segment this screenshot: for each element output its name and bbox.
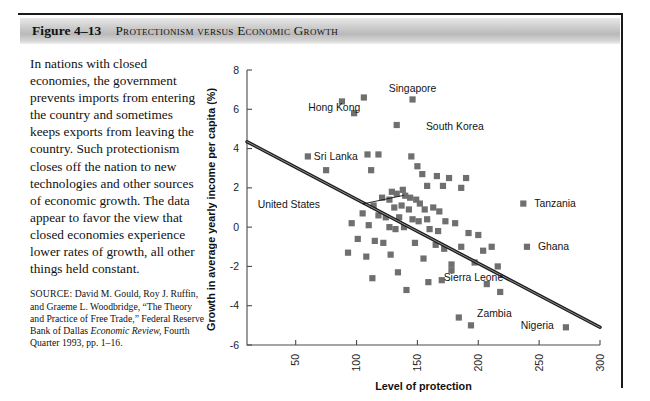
data-point xyxy=(363,254,369,260)
data-point xyxy=(417,200,423,206)
data-point xyxy=(408,153,414,159)
data-point xyxy=(419,171,425,177)
y-tick-label: -2 xyxy=(230,260,239,272)
data-point xyxy=(403,287,409,293)
trendline-highlight xyxy=(247,142,600,328)
data-point xyxy=(489,244,495,250)
source-journal-name: Economic Review, xyxy=(91,325,162,336)
y-tick-label: 8 xyxy=(233,64,239,76)
annotation-label: Sri Lanka xyxy=(314,151,358,162)
data-point xyxy=(394,191,400,197)
annotation-label: Sierra Leone xyxy=(444,272,504,283)
x-tick-label: 100 xyxy=(350,354,362,372)
y-tick-label: -6 xyxy=(230,339,239,351)
data-point xyxy=(422,206,428,212)
data-point xyxy=(424,216,430,222)
page-right-rule xyxy=(621,13,623,388)
data-point xyxy=(349,220,355,226)
page-top-rule xyxy=(18,13,622,15)
data-point xyxy=(446,175,452,181)
data-point xyxy=(391,204,397,210)
annotation-label: Zambia xyxy=(477,308,512,319)
figure-source-note: SOURCE: David M. Gould, Roy J. Ruffin, a… xyxy=(30,288,206,349)
data-point xyxy=(416,218,422,224)
data-point xyxy=(345,250,351,256)
x-axis-title: Level of protection xyxy=(375,380,472,392)
x-tick-label: 200 xyxy=(472,354,484,372)
y-axis-title: Growth in average yearly income per capi… xyxy=(205,88,217,331)
data-point xyxy=(386,224,392,230)
data-point xyxy=(420,255,426,261)
data-point xyxy=(440,183,446,189)
data-point xyxy=(372,238,378,244)
data-point xyxy=(563,324,569,330)
data-point xyxy=(388,252,394,258)
data-point xyxy=(425,279,431,285)
y-tick-label: 0 xyxy=(233,221,239,233)
data-point xyxy=(430,204,436,210)
annotation-label: Tanzania xyxy=(534,198,576,209)
trendline-group xyxy=(247,142,600,328)
data-point xyxy=(436,208,442,214)
annotation-label: Singapore xyxy=(389,83,437,94)
y-tick-label: -4 xyxy=(230,299,239,311)
x-tick-label: 50 xyxy=(289,354,301,366)
figure-title: Protectionism versus Economic Growth xyxy=(115,23,338,39)
figure-header-bar: Figure 4–13 Protectionism versus Economi… xyxy=(20,18,620,44)
data-point xyxy=(368,167,374,173)
data-point xyxy=(435,228,441,234)
data-point xyxy=(380,240,386,246)
chart-svg: -6-4-202468 50100150200250300 SingaporeH… xyxy=(200,52,620,392)
data-point xyxy=(375,151,381,157)
annotation-label: South Korea xyxy=(426,121,484,132)
data-point xyxy=(305,153,311,159)
data-point xyxy=(465,230,471,236)
data-point xyxy=(395,269,401,275)
data-point xyxy=(412,240,418,246)
data-point xyxy=(497,289,503,295)
y-axis-ticks: -6-4-202468 xyxy=(230,64,252,351)
data-point xyxy=(480,248,486,254)
data-point xyxy=(409,96,415,102)
y-tick-label: 6 xyxy=(233,103,239,115)
data-point xyxy=(394,122,400,128)
data-point xyxy=(424,183,430,189)
data-point xyxy=(448,261,454,267)
data-point xyxy=(458,244,464,250)
figure-text-column: In nations with closed economies, the go… xyxy=(30,55,206,350)
data-point xyxy=(442,218,448,224)
data-point xyxy=(409,216,415,222)
data-point xyxy=(452,220,458,226)
x-tick-label: 300 xyxy=(594,354,606,372)
data-point xyxy=(364,151,370,157)
data-point xyxy=(406,206,412,212)
data-point xyxy=(524,244,530,250)
data-point xyxy=(360,210,366,216)
y-axis-title-wrap: Growth in average yearly income per capi… xyxy=(203,76,219,344)
data-point xyxy=(458,185,464,191)
data-point xyxy=(520,200,526,206)
data-point xyxy=(366,222,372,228)
figure-number: Figure 4–13 xyxy=(32,23,101,39)
source-label: SOURCE: xyxy=(30,288,72,299)
data-point xyxy=(392,226,398,232)
annotation-label: Ghana xyxy=(538,241,569,252)
data-point xyxy=(400,187,406,193)
data-point xyxy=(475,232,481,238)
data-point xyxy=(426,226,432,232)
data-point xyxy=(463,175,469,181)
data-point xyxy=(414,163,420,169)
data-point xyxy=(361,94,367,100)
figure-header-inner: Figure 4–13 Protectionism versus Economi… xyxy=(32,18,338,44)
annotation-label: United States xyxy=(258,199,320,210)
y-tick-label: 4 xyxy=(233,142,239,154)
data-point xyxy=(369,275,375,281)
figure-body-paragraph: In nations with closed economies, the go… xyxy=(30,55,206,277)
data-point xyxy=(434,173,440,179)
annotations-group: SingaporeHong KongSouth KoreaSri LankaUn… xyxy=(258,83,576,331)
data-point xyxy=(456,314,462,320)
figure-page: Figure 4–13 Protectionism versus Economi… xyxy=(0,0,650,401)
x-tick-label: 250 xyxy=(533,354,545,372)
data-point xyxy=(355,236,361,242)
data-point xyxy=(468,322,474,328)
